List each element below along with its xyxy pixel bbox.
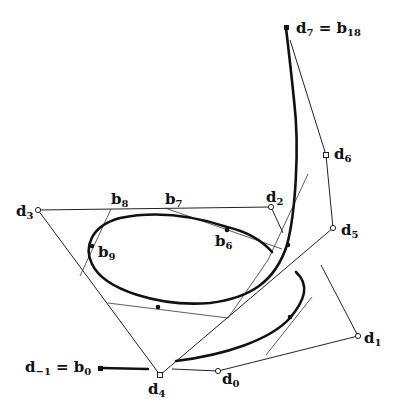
label-d7-eq-b18: d7 = b18 bbox=[296, 21, 361, 38]
label-d0: d0 bbox=[222, 372, 239, 389]
label-b7: b7 bbox=[165, 192, 182, 209]
label-d4: d4 bbox=[148, 382, 165, 399]
control-polygon bbox=[38, 40, 358, 375]
control-points bbox=[35, 153, 360, 378]
label-d2: d2 bbox=[266, 190, 283, 207]
label-d5: d5 bbox=[341, 223, 358, 240]
label-d3: d3 bbox=[16, 204, 33, 221]
label-d6: d6 bbox=[334, 147, 351, 164]
label-b9: b9 bbox=[98, 245, 115, 262]
b-spline-diagram bbox=[0, 0, 402, 409]
label-b8: b8 bbox=[111, 192, 128, 209]
label-d-minus1-eq-b0: d−1 = b0 bbox=[25, 360, 91, 377]
label-b6: b6 bbox=[215, 234, 232, 251]
label-d1: d1 bbox=[364, 331, 381, 348]
